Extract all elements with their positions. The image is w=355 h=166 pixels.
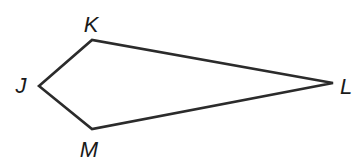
vertex-label-j: J	[15, 73, 28, 98]
kite-polygon	[39, 40, 333, 129]
vertex-label-m: M	[80, 137, 99, 162]
kite-diagram: K L M J	[0, 0, 355, 166]
vertex-label-k: K	[84, 12, 100, 37]
vertex-label-l: L	[340, 74, 352, 99]
